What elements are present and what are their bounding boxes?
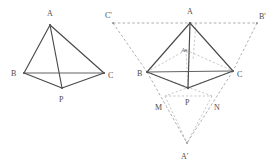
right-label-b: B (137, 69, 142, 78)
left-label-c: C (108, 71, 113, 80)
right-dashed-b-a1 (147, 50, 186, 72)
left-vertex-p-dot (61, 87, 63, 89)
right-label-c-prime: C' (105, 11, 112, 20)
right-label-a-prime: A' (181, 152, 189, 161)
right-label-a1: A₁ (181, 46, 188, 53)
right-vertex-c-dot (232, 70, 234, 72)
right-vertex-p-dot (187, 87, 189, 89)
right-label-a: A (187, 7, 193, 16)
left-edge-bp (24, 73, 62, 88)
right-label-m: M (155, 103, 162, 112)
right-dashed-n-aprime (187, 96, 212, 143)
right-dashed-cprime-b (113, 23, 147, 72)
right-edge-ac (190, 23, 233, 71)
right-vertex-a-dot (189, 22, 191, 24)
right-dashed-b-aprime (147, 72, 187, 143)
right-edge-pc (188, 71, 233, 88)
right-diagram-group: A B C P A₁ A' B' C' M N (105, 7, 266, 161)
left-vertex-a-dot (49, 24, 51, 26)
right-label-p: P (185, 98, 190, 107)
left-label-p: P (59, 95, 64, 104)
right-vertex-cprime-dot (112, 22, 114, 24)
right-dashed-c-aprime (187, 71, 233, 143)
right-dashed-bprime-c (233, 23, 257, 71)
left-diagram-group: A B C P (11, 9, 113, 104)
left-edge-ab (24, 25, 50, 73)
right-dashed-m-aprime (165, 96, 187, 143)
right-dashed-a1-c (186, 50, 233, 71)
right-edge-ap (188, 23, 190, 88)
left-edge-pc (62, 73, 104, 88)
right-vertex-b-dot (146, 71, 148, 73)
right-edge-bc (147, 71, 233, 72)
left-vertex-c-dot (103, 72, 105, 74)
left-label-a: A (47, 9, 53, 18)
geometry-diagram-canvas: A B C P (0, 0, 273, 164)
right-label-c: C (237, 70, 242, 79)
right-vertex-bprime-dot (256, 22, 258, 24)
geometry-figure-container: A B C P (0, 0, 273, 164)
right-label-n: N (214, 103, 220, 112)
left-vertex-b-dot (23, 72, 25, 74)
right-vertex-aprime-dot (186, 142, 188, 144)
right-label-b-prime: B' (259, 12, 266, 21)
left-label-b: B (11, 69, 16, 78)
right-edge-bp (147, 72, 188, 88)
